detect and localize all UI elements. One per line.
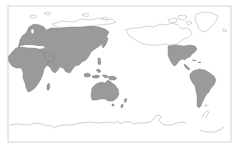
tasmania bbox=[112, 104, 114, 106]
map-canvas bbox=[0, 0, 246, 151]
world-map bbox=[0, 0, 246, 151]
falklands-outline bbox=[205, 105, 207, 106]
